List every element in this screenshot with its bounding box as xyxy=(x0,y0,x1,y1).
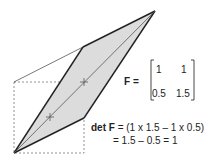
matrix-r2c2: 1.5 xyxy=(176,89,190,99)
matrix-r2c1: 0.5 xyxy=(152,89,166,99)
determinant-line1: det F = (1 x 1.5 – 1 x 0.5) xyxy=(91,123,204,133)
determinant-line2: = 1.5 – 0.5 = 1 xyxy=(113,136,178,146)
matrix-r1c1: 1 xyxy=(156,65,162,75)
matrix-label: F = xyxy=(124,77,139,87)
matrix-r1c2: 1 xyxy=(181,65,187,75)
deformation-diagram xyxy=(0,0,219,162)
det-expression: = (1 x 1.5 – 1 x 0.5) xyxy=(115,122,204,133)
det-label: det F xyxy=(91,122,115,133)
